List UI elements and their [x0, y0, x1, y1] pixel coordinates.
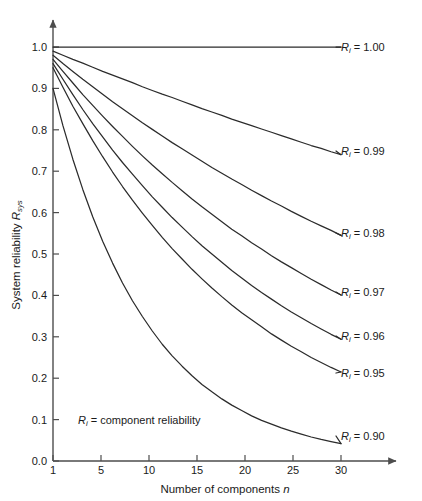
y-axis-title-prefix: System reliability — [10, 220, 22, 309]
series-labels-group: Ri = 1.00Ri = 0.99Ri = 0.98Ri = 0.97Ri =… — [336, 41, 385, 444]
series-label-value: = 0.97 — [351, 286, 385, 298]
reliability-chart-figure: 0.0 0.1 0.2 0.3 0.4 0.5 0.6 0.7 0.8 0.9 … — [0, 0, 422, 501]
series-label-0.9: Ri = 0.90 — [341, 430, 385, 444]
component-reliability-note: Ri = component reliability — [78, 414, 201, 428]
y-tick-label: 0.8 — [32, 124, 47, 136]
series-label-symbol: R — [341, 430, 349, 442]
series-label-0.98: Ri = 0.98 — [341, 227, 385, 241]
series-label-symbol: R — [341, 145, 349, 157]
y-tick-label: 0.3 — [32, 331, 47, 343]
series-label-1: Ri = 1.00 — [341, 41, 385, 55]
x-tick-label: 25 — [287, 464, 299, 476]
x-tick-label: 1 — [50, 464, 56, 476]
note-text: = component reliability — [88, 414, 201, 426]
curve-0.95 — [53, 68, 341, 372]
x-tick-label: 30 — [335, 464, 347, 476]
series-label-symbol: R — [341, 286, 349, 298]
series-label-value: = 0.95 — [351, 367, 385, 379]
y-axis-tick-labels: 0.0 0.1 0.2 0.3 0.4 0.5 0.6 0.7 0.8 0.9 … — [32, 41, 47, 467]
data-curves-group — [53, 47, 341, 444]
y-axis-title-subscript: sys — [15, 200, 24, 212]
y-tick-label: 0.9 — [32, 82, 47, 94]
y-tick-label: 0.1 — [32, 414, 47, 426]
chart-canvas: 0.0 0.1 0.2 0.3 0.4 0.5 0.6 0.7 0.8 0.9 … — [0, 0, 422, 501]
series-label-symbol: R — [341, 367, 349, 379]
curve-0.97 — [53, 59, 341, 295]
series-label-0.95: Ri = 0.95 — [341, 367, 385, 381]
x-tick-label: 15 — [191, 464, 203, 476]
curve-0.96 — [53, 64, 341, 340]
y-tick-label: 0.7 — [32, 165, 47, 177]
series-label-symbol: R — [341, 330, 349, 342]
x-axis-title-prefix: Number of components — [160, 483, 283, 495]
y-axis-title: System reliability Rsys — [10, 200, 24, 309]
y-tick-label: 0.5 — [32, 248, 47, 260]
y-tick-label: 0.0 — [32, 455, 47, 467]
x-axis-title-symbol: n — [283, 483, 289, 495]
series-label-value: = 1.00 — [351, 41, 385, 53]
x-tick-label: 10 — [143, 464, 155, 476]
series-label-0.97: Ri = 0.97 — [341, 286, 385, 300]
series-label-0.96: Ri = 0.96 — [341, 330, 385, 344]
y-tick-label: 0.4 — [32, 289, 47, 301]
series-label-value: = 0.90 — [351, 430, 385, 442]
series-label-value: = 0.98 — [351, 227, 385, 239]
series-label-value: = 0.99 — [351, 145, 385, 157]
series-label-symbol: R — [341, 41, 349, 53]
note-symbol: R — [78, 414, 86, 426]
x-tick-label: 20 — [239, 464, 251, 476]
series-label-value: = 0.96 — [351, 330, 385, 342]
curve-0.99 — [53, 51, 341, 155]
x-axis-tick-labels: 1 5 10 15 20 25 30 — [50, 464, 347, 476]
y-tick-label: 0.2 — [32, 372, 47, 384]
series-label-0.99: Ri = 0.99 — [341, 145, 385, 159]
x-axis-title: Number of components n — [160, 483, 289, 495]
x-tick-label: 5 — [98, 464, 104, 476]
x-axis-ticks — [53, 455, 341, 461]
series-label-symbol: R — [341, 227, 349, 239]
y-tick-label: 1.0 — [32, 41, 47, 53]
y-tick-label: 0.6 — [32, 207, 47, 219]
y-axis-title-symbol: R — [10, 212, 22, 220]
